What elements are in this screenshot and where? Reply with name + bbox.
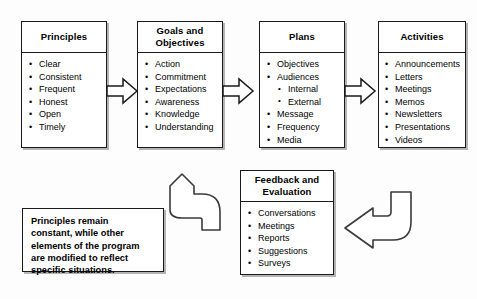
bullet-icon: •: [267, 58, 270, 71]
block-arrow-right-icon: [223, 78, 254, 104]
list-item-label: Videos: [395, 135, 422, 145]
item-list-feedback: •Conversations •Meetings •Reports •Sugge…: [247, 207, 330, 270]
list-item: •Media: [266, 134, 341, 147]
list-item: •Suggestions: [247, 245, 330, 258]
list-item-label: Clear: [39, 59, 61, 69]
list-item: •Awareness: [144, 96, 219, 109]
list-item: •Action: [144, 58, 219, 71]
item-list-principles: •Clear •Consistent •Frequent •Honest •Op…: [28, 58, 103, 134]
list-item-label: Audiences: [277, 72, 319, 82]
bullet-icon: •: [248, 257, 251, 270]
box-body-feedback: •Conversations •Meetings •Reports •Sugge…: [241, 202, 333, 274]
list-item: •Letters: [384, 71, 462, 84]
bullet-icon: •: [29, 58, 32, 71]
bullet-icon: •: [267, 121, 270, 134]
list-item: •Conversations: [247, 207, 330, 220]
list-item-label: Meetings: [258, 221, 295, 231]
list-item-label: Understanding: [155, 122, 214, 132]
connector-principles-to-goals: [107, 78, 138, 104]
elbow-arrow-left-icon: [343, 192, 415, 250]
list-item: •Surveys: [247, 257, 330, 270]
list-item-label: Letters: [395, 72, 423, 82]
list-item: •Open: [28, 108, 103, 121]
block-arrow-right-icon: [107, 78, 138, 104]
bullet-icon: •: [248, 220, 251, 233]
process-box-feedback[interactable]: Feedback and Evaluation •Conversations •…: [240, 170, 334, 275]
connector-goals-to-plans: [223, 78, 254, 104]
list-item-label: Newsletters: [395, 109, 442, 119]
list-item: •Frequency: [266, 121, 341, 134]
connector-activities-to-feedback: [343, 192, 415, 250]
list-item: •Understanding: [144, 121, 219, 134]
list-item-label: Reports: [258, 233, 290, 243]
list-item: •Reports: [247, 232, 330, 245]
box-header-line-2: Evaluation: [262, 186, 311, 198]
bullet-icon: •: [145, 58, 148, 71]
list-item-label: Memos: [395, 97, 425, 107]
bullet-icon: •: [385, 96, 388, 109]
box-header-line-1: Feedback and: [255, 174, 320, 186]
list-item-label: Awareness: [155, 97, 199, 107]
list-item: •Timely: [28, 121, 103, 134]
list-item: •Consistent: [28, 71, 103, 84]
list-item-label: Message: [277, 109, 314, 119]
list-item-label: Timely: [39, 122, 65, 132]
list-item: •Commitment: [144, 71, 219, 84]
box-body-goals: •Action •Commitment •Expectations •Aware…: [138, 53, 222, 138]
elbow-arrow-up-icon: [160, 172, 222, 234]
sub-list-item-label: Internal: [288, 84, 318, 94]
bullet-icon: •: [267, 134, 270, 147]
list-item-label: Announcements: [395, 59, 460, 69]
bullet-icon: •: [385, 71, 388, 84]
list-item: •Presentations: [384, 121, 462, 134]
bullet-icon: •: [385, 121, 388, 134]
bullet-icon: •: [29, 121, 32, 134]
process-box-plans[interactable]: Plans •Objectives •Audiences •Internal •…: [259, 21, 345, 148]
block-arrow-right-icon: [345, 78, 376, 104]
list-item-label: Meetings: [395, 84, 432, 94]
box-body-activities: •Announcements •Letters •Meetings •Memos…: [379, 53, 465, 150]
bullet-icon: •: [267, 71, 270, 84]
list-item-label: Frequent: [39, 84, 75, 94]
list-item: •Clear: [28, 58, 103, 71]
bullet-icon: •: [248, 207, 251, 220]
note-line-1: Principles remain: [31, 215, 156, 227]
bullet-icon: •: [145, 83, 148, 96]
list-item-label: Action: [155, 59, 180, 69]
list-item-label: Commitment: [155, 72, 206, 82]
bullet-icon: •: [145, 96, 148, 109]
process-box-principles[interactable]: Principles •Clear •Consistent •Frequent …: [21, 21, 107, 148]
box-header-goals: Goals and Objectives: [138, 22, 222, 53]
list-item-label: Conversations: [258, 208, 316, 218]
list-item-label: Surveys: [258, 258, 291, 268]
list-item: •Expectations: [144, 83, 219, 96]
bullet-icon: •: [267, 108, 270, 121]
list-item: •Audiences •Internal •External: [266, 71, 341, 109]
box-header-plans: Plans: [260, 22, 344, 53]
list-item-label: Media: [277, 135, 302, 145]
list-item: •Videos: [384, 134, 462, 147]
list-item-label: Frequency: [277, 122, 320, 132]
list-item-label: Knowledge: [155, 109, 200, 119]
list-item: •Meetings: [247, 220, 330, 233]
list-item-label: Presentations: [395, 122, 450, 132]
process-box-goals[interactable]: Goals and Objectives •Action •Commitment…: [137, 21, 223, 148]
bullet-icon: •: [385, 83, 388, 96]
list-item: •Message: [266, 108, 341, 121]
list-item-label: Objectives: [277, 59, 319, 69]
list-item: •Frequent: [28, 83, 103, 96]
item-list-plans: •Objectives •Audiences •Internal •Extern…: [266, 58, 341, 146]
list-item-label: Expectations: [155, 84, 207, 94]
box-header-line-2: Objectives: [155, 37, 204, 49]
note-line-4: are modified to reflect: [31, 252, 156, 264]
note-line-2: constant, while other: [31, 227, 156, 239]
list-item: •Announcements: [384, 58, 462, 71]
list-item-label: Honest: [39, 97, 68, 107]
list-item-label: Consistent: [39, 72, 82, 82]
bullet-icon: •: [385, 134, 388, 147]
process-box-activities[interactable]: Activities •Announcements •Letters •Meet…: [378, 21, 466, 148]
box-header-principles: Principles: [22, 22, 106, 53]
bullet-icon: •: [278, 95, 281, 108]
bullet-icon: •: [29, 96, 32, 109]
principles-note-box[interactable]: Principles remain constant, while other …: [22, 208, 164, 272]
